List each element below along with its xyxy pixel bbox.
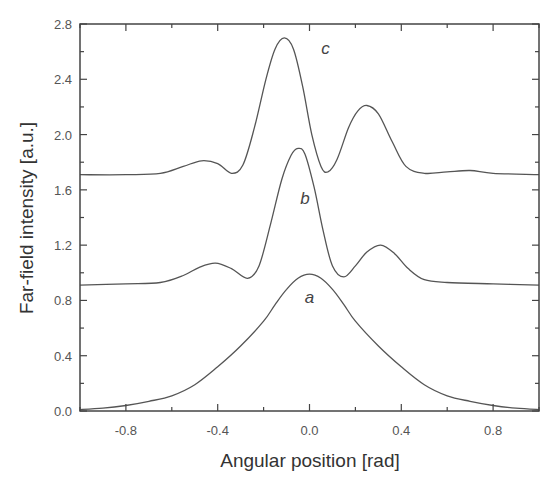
- x-axis-title: Angular position [rad]: [220, 450, 400, 471]
- y-tick-label: 2.0: [54, 128, 72, 143]
- curve-labels-group: abc: [300, 39, 330, 307]
- x-tick-label: 0.0: [300, 423, 318, 438]
- plot-frame: [80, 24, 539, 411]
- x-axis-ticks: -0.8-0.40.00.40.8: [80, 24, 539, 438]
- y-tick-label: 0.8: [54, 293, 72, 308]
- curve-label-c: c: [321, 39, 330, 58]
- y-axis-ticks: 0.00.40.81.21.62.02.42.8: [54, 17, 539, 419]
- chart: abc -0.8-0.40.00.40.8 0.00.40.81.21.62.0…: [0, 0, 553, 488]
- curve-b: [80, 148, 539, 285]
- x-tick-label: 0.4: [392, 423, 410, 438]
- curve-c: [80, 38, 539, 175]
- curves-group: [80, 38, 539, 410]
- y-tick-label: 1.6: [54, 183, 72, 198]
- y-tick-label: 0.0: [54, 404, 72, 419]
- curve-label-a: a: [305, 288, 314, 307]
- y-axis-title: Far-field intensity [a.u.]: [16, 122, 37, 314]
- y-tick-label: 1.2: [54, 238, 72, 253]
- x-tick-label: -0.8: [115, 423, 137, 438]
- curve-label-b: b: [300, 189, 309, 208]
- x-tick-label: -0.4: [206, 423, 228, 438]
- x-tick-label: 0.8: [484, 423, 502, 438]
- y-tick-label: 2.8: [54, 17, 72, 32]
- y-tick-label: 0.4: [54, 349, 72, 364]
- y-tick-label: 2.4: [54, 72, 72, 87]
